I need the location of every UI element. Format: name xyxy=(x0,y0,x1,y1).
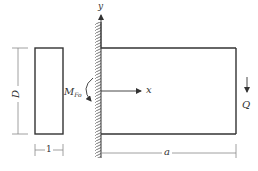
height-label-text: D xyxy=(10,90,21,98)
fixed-wall xyxy=(95,22,101,158)
moment-arrow xyxy=(86,78,93,101)
diagram-canvas: y x D 1 a Q MFo xyxy=(0,0,258,171)
height-label: D xyxy=(11,90,21,98)
cross-section-rect xyxy=(35,48,63,134)
length-label: a xyxy=(164,147,170,157)
thickness-label: 1 xyxy=(46,145,52,154)
moment-label-subscript: Fo xyxy=(74,91,81,98)
y-axis-label: y xyxy=(98,2,103,11)
diagram-svg xyxy=(0,0,258,171)
moment-label-main: M xyxy=(64,86,74,97)
x-axis-label: x xyxy=(146,85,152,95)
load-label: Q xyxy=(242,100,250,110)
moment-label: MFo xyxy=(64,87,82,98)
